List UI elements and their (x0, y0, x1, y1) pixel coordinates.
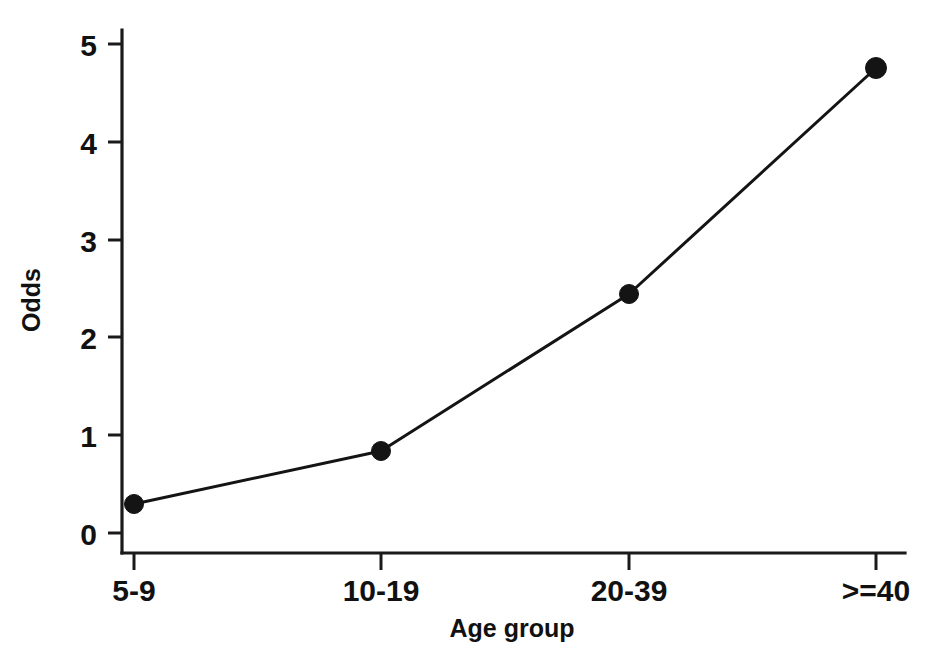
odds-by-age-group-line-chart: 5 4 3 2 1 0 5-9 10-19 20-39 >=40 (0, 0, 930, 652)
y-tick-label-5: 5 (80, 29, 97, 62)
data-point-10-19[interactable] (372, 442, 391, 461)
y-tick-label-0: 0 (80, 518, 97, 551)
data-point-gte-40[interactable] (866, 58, 887, 79)
x-tick-label-10-19: 10-19 (343, 574, 420, 607)
y-axis-title: Odds (17, 268, 45, 332)
x-axis-title: Age group (450, 614, 575, 642)
x-tick-label-gte-40: >=40 (842, 574, 910, 607)
y-tick-label-1: 1 (80, 420, 97, 453)
y-tick-label-3: 3 (80, 225, 97, 258)
x-tick-label-20-39: 20-39 (591, 574, 668, 607)
chart-canvas: 5 4 3 2 1 0 5-9 10-19 20-39 >=40 (0, 0, 930, 652)
data-point-20-39[interactable] (620, 285, 639, 304)
y-tick-label-4: 4 (80, 127, 97, 160)
y-tick-label-2: 2 (80, 322, 97, 355)
data-point-5-9[interactable] (125, 495, 144, 514)
chart-page: 5 4 3 2 1 0 5-9 10-19 20-39 >=40 (0, 0, 930, 652)
x-tick-label-5-9: 5-9 (112, 574, 155, 607)
